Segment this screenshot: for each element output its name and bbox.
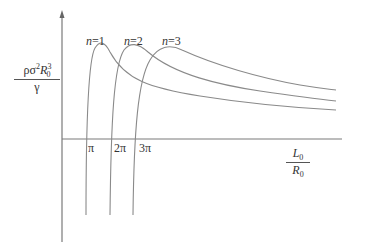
tick-3pi: 3π — [139, 141, 151, 156]
curve-n2 — [110, 45, 336, 215]
y-axis-arrow-icon — [60, 10, 65, 18]
curve-label-n1: n=1 — [86, 34, 105, 49]
curve-label-n2: n=2 — [124, 34, 143, 49]
plot-canvas — [0, 0, 366, 252]
tick-pi: π — [88, 141, 94, 156]
curve-n1 — [86, 43, 336, 215]
y-axis-label: ρσ2R30 γ — [14, 62, 60, 95]
curve-label-n3: n=3 — [162, 34, 181, 49]
tick-2pi: 2π — [114, 141, 126, 156]
diagram: ρσ2R30 γ L0 R0 π 2π 3π n=1 n=2 n=3 — [0, 0, 366, 252]
curve-n3 — [133, 47, 336, 215]
x-axis-label: L0 R0 — [286, 146, 310, 180]
